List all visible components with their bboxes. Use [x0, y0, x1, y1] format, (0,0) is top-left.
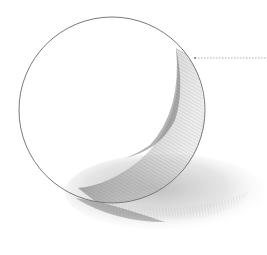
pointer-dot	[194, 57, 196, 59]
sketch-drawing	[0, 0, 267, 255]
sphere-sketch	[0, 0, 267, 255]
